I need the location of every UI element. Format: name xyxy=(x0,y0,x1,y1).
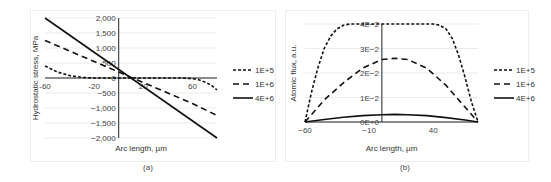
chart-a: −2,000−1,500−1,000−50005001,0001,5002,00… xyxy=(31,14,274,153)
y-tick-label: −2,000 xyxy=(91,134,116,143)
y-tick-label: 1E−2 xyxy=(360,94,379,103)
x-tick-label: 60 xyxy=(188,82,197,91)
x-tick-label: −10 xyxy=(362,126,376,135)
legend-label: 1E+5 xyxy=(516,66,535,75)
legend-label: 4E+6 xyxy=(516,94,535,103)
y-tick-label: 2,000 xyxy=(96,14,117,23)
x-tick-label: -20 xyxy=(88,82,100,91)
x-tick-label: -60 xyxy=(39,82,51,91)
y-tick-label: −500 xyxy=(98,89,117,98)
x-axis-label: Arc length, µm xyxy=(115,144,167,153)
series-line-1Ep6 xyxy=(305,58,478,122)
caption-a: (a) xyxy=(128,163,168,172)
caption-b: (b) xyxy=(385,163,425,172)
y-tick-label: 1,500 xyxy=(96,29,117,38)
series-line-4Ep6 xyxy=(305,114,478,122)
x-tick-label: −60 xyxy=(298,126,312,135)
y-tick-label: 3E−2 xyxy=(360,45,379,54)
legend-label: 4E+6 xyxy=(255,94,274,103)
y-axis-label: Atomic flux, a.u. xyxy=(289,45,298,102)
charts-svg: −2,000−1,500−1,000−50005001,0001,5002,00… xyxy=(0,0,551,182)
y-tick-label: 1,000 xyxy=(96,44,117,53)
x-tick-label: 40 xyxy=(429,126,438,135)
legend-label: 1E+6 xyxy=(516,80,535,89)
y-tick-label: −1,000 xyxy=(91,104,116,113)
chart-b: 0E+01E−22E−23E−24E−2−60−10401E+51E+64E+6… xyxy=(289,20,535,153)
y-axis-label: Hydrostatic stress, MPa xyxy=(31,35,40,120)
y-tick-label: 2E−2 xyxy=(360,69,379,78)
x-axis-label: Arc length, µm xyxy=(366,144,418,153)
legend-label: 1E+5 xyxy=(255,66,274,75)
legend-label: 1E+6 xyxy=(255,80,274,89)
y-tick-label: −1,500 xyxy=(91,119,116,128)
